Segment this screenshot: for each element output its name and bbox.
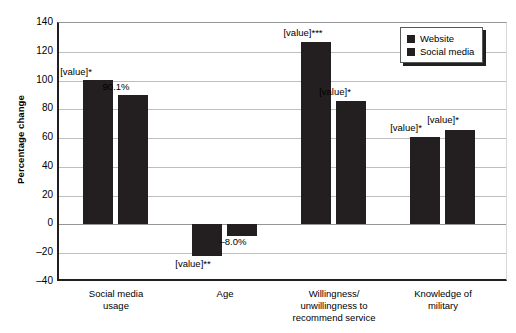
chart-legend: Website Social media	[400, 27, 483, 63]
bar-value-label-website-age: [value]**	[165, 258, 221, 269]
y-tick-label: 120	[13, 46, 53, 56]
y-tick-label: 80	[13, 103, 53, 113]
bar-socialmedia-willingness	[336, 101, 366, 225]
bar-value-label-socialmedia-age: –8.0%	[208, 236, 258, 247]
x-axis-label-willingness: Willingness/ unwillingness to recommend …	[274, 288, 394, 324]
bar-chart-figure: Percentage change 140 120 100 80 60 40 2…	[0, 0, 516, 333]
bar-value-label-socialmedia-knowledge: [value]*	[418, 114, 468, 125]
legend-swatch-icon	[407, 48, 415, 56]
bar-socialmedia-social-media-usage	[118, 95, 148, 225]
y-tick-label: –20	[13, 247, 53, 257]
bar-website-knowledge	[410, 137, 440, 225]
bar-socialmedia-age	[227, 224, 257, 236]
legend-item-social-media: Social media	[407, 45, 474, 58]
bar-website-willingness	[301, 42, 331, 225]
y-tick-label: 140	[13, 17, 53, 27]
bar-value-label-website-willingness: [value]***	[273, 27, 333, 38]
y-tick-label: 40	[13, 161, 53, 171]
gridline	[59, 253, 506, 254]
zero-gridline	[59, 224, 506, 225]
bar-value-label-socialmedia-willingness: [value]*	[310, 86, 360, 97]
y-tick-label: 100	[13, 75, 53, 85]
legend-label-social-media: Social media	[420, 46, 474, 57]
legend-label-website: Website	[420, 33, 454, 44]
y-tick-label: –40	[13, 276, 53, 286]
y-tick-label: 60	[13, 132, 53, 142]
bar-value-label-socialmedia-social-media-usage: 90.1%	[91, 81, 141, 92]
bar-socialmedia-knowledge	[445, 130, 475, 225]
x-axis-label-social-media-usage: Social media usage	[66, 288, 166, 312]
y-tick-label: 0	[13, 218, 53, 228]
x-axis-label-age: Age	[175, 288, 275, 300]
bar-website-social-media-usage	[83, 80, 113, 224]
y-tick-label: 20	[13, 190, 53, 200]
legend-swatch-icon	[407, 35, 415, 43]
legend-item-website: Website	[407, 32, 474, 45]
bar-value-label-website-social-media-usage: [value]*	[51, 66, 101, 77]
x-axis-label-knowledge-of-military: Knowledge of military	[393, 288, 493, 312]
